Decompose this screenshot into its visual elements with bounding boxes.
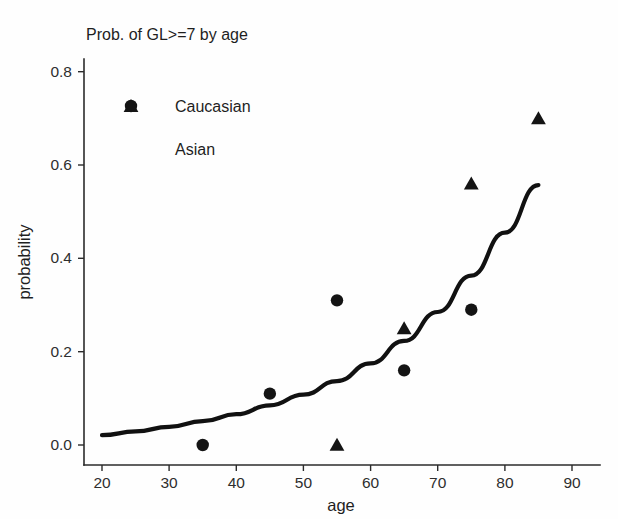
y-tick-label-4: 0.8	[50, 63, 72, 80]
x-tick-label-5: 70	[429, 474, 447, 491]
legend-label-asian: Asian	[175, 141, 215, 158]
x-tick-label-4: 60	[362, 474, 380, 491]
scatter-plot: 0.0 0.2 0.4 0.6 0.8 20 30 40 50 60 70 80…	[0, 0, 618, 519]
y-axis-ticks	[78, 72, 84, 445]
x-tick-label-2: 40	[228, 474, 246, 491]
x-tick-label-1: 30	[160, 474, 178, 491]
data-point-circle	[264, 387, 276, 399]
data-point-triangle	[531, 111, 546, 124]
y-tick-label-1: 0.2	[50, 343, 72, 360]
x-tick-label-7: 90	[563, 474, 581, 491]
x-tick-label-6: 80	[496, 474, 514, 491]
data-point-triangle	[397, 321, 412, 334]
y-tick-label-2: 0.4	[50, 249, 72, 266]
legend: Caucasian Asian	[124, 98, 251, 158]
y-tick-label-0: 0.0	[50, 436, 72, 453]
chart-title: Prob. of GL>=7 by age	[86, 26, 248, 43]
chart-figure: 0.0 0.2 0.4 0.6 0.8 20 30 40 50 60 70 80…	[0, 0, 618, 519]
x-tick-label-0: 20	[93, 474, 111, 491]
x-axis-label: age	[327, 496, 355, 514]
y-axis-label: probability	[15, 224, 33, 300]
data-point-circle	[465, 303, 477, 315]
data-point-circle	[197, 439, 209, 451]
legend-label-caucasian: Caucasian	[175, 98, 251, 115]
x-axis-ticks	[102, 465, 572, 471]
data-markers-layer	[197, 111, 546, 451]
data-point-triangle	[464, 177, 479, 190]
x-tick-label-3: 50	[295, 474, 313, 491]
data-point-circle	[331, 294, 343, 306]
data-point-triangle	[330, 438, 345, 451]
data-point-circle	[398, 364, 410, 376]
y-tick-label-3: 0.6	[50, 156, 72, 173]
